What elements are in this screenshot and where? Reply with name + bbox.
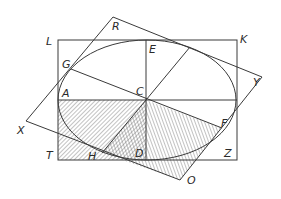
label-r: R xyxy=(112,20,120,33)
label-e: E xyxy=(149,43,156,56)
label-a: A xyxy=(61,87,70,100)
label-c: C xyxy=(136,85,144,98)
label-g: G xyxy=(62,58,71,71)
label-o: O xyxy=(187,174,196,187)
label-f: F xyxy=(221,117,228,130)
label-y: Y xyxy=(253,76,261,89)
label-l: L xyxy=(46,35,52,48)
ellipse-conjugate-diameters-diagram: L R E K G Y A C X F T H D Z O xyxy=(0,0,281,199)
label-d: D xyxy=(135,147,143,160)
label-z: Z xyxy=(223,147,232,160)
label-t: T xyxy=(46,149,54,162)
label-h: H xyxy=(88,150,96,163)
label-k: K xyxy=(240,33,248,46)
label-x: X xyxy=(16,124,25,137)
